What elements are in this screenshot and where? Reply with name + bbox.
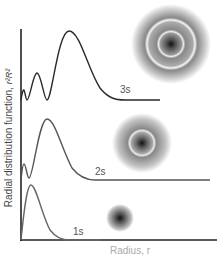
y-axis-label: Radial distribution function, r²R² [3,43,15,233]
curve-1s [21,185,100,240]
orbital-2s-image [112,113,172,173]
x-axis-label: Radius, r [110,245,150,256]
label-3s: 3s [120,84,131,95]
orbital-3s-image [131,4,211,84]
label-2s: 2s [95,166,106,177]
orbital-1s-image [106,204,134,232]
label-1s: 1s [73,226,84,237]
